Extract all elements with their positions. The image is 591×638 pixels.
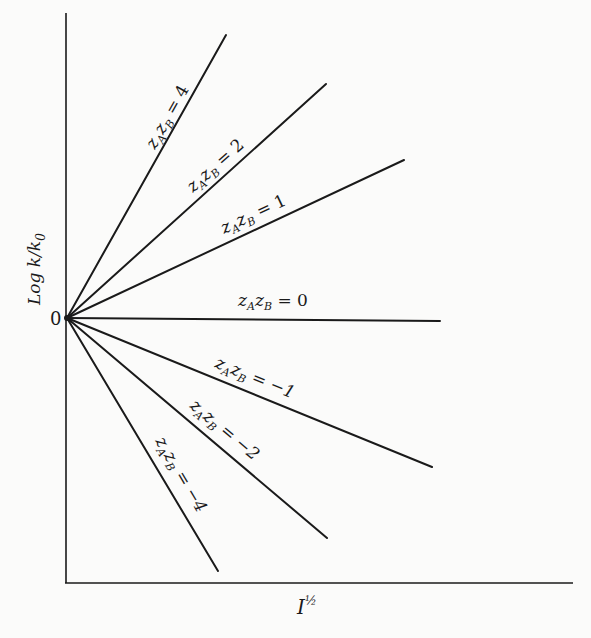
label-zazb-m4: zAzB = −4 xyxy=(148,432,211,517)
label-zazb-2: zAzB = 2 xyxy=(182,134,250,199)
x-axis-title: I½ xyxy=(296,594,317,619)
chart: 0 Log k/k0 I½ zAzB = 4 zAzB = 2 zAzB = 1… xyxy=(0,0,591,638)
label-zazb-m1: zAzB = −1 xyxy=(210,352,298,405)
origin-point xyxy=(64,315,70,321)
line-zazb-0 xyxy=(67,318,440,321)
origin-label: 0 xyxy=(50,308,61,329)
label-zazb-4: zAzB = 4 xyxy=(141,81,196,154)
label-zazb-0: zAzB = 0 xyxy=(237,290,308,313)
label-zazb-m2: zAzB = −2 xyxy=(184,394,264,466)
line-zazb-m4 xyxy=(67,318,218,571)
label-zazb-1: zAzB = 1 xyxy=(216,190,290,241)
line-zazb-2 xyxy=(67,84,326,318)
line-zazb-1 xyxy=(67,160,404,318)
y-axis-title: Log k/k0 xyxy=(24,233,48,306)
